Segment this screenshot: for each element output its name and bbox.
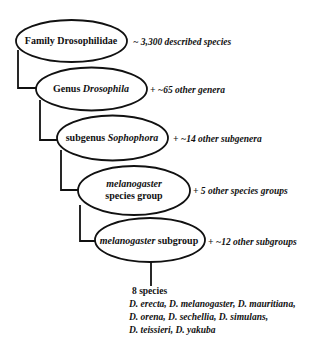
node-genus-label: Genus Drosophila: [53, 83, 129, 95]
node-species-group-italic: melanogaster: [106, 178, 162, 189]
node-subgenus-prefix: subgenus: [66, 132, 108, 143]
node-subgenus-italic: Sophophora: [108, 132, 159, 143]
node-genus-italic: Drosophila: [83, 83, 129, 94]
node-species-group-label: melanogaster species group: [105, 178, 162, 202]
node-subgroup-label: melanogaster subgroup: [100, 235, 198, 247]
annotation-subgenus: + ~14 other subgenera: [173, 134, 262, 144]
annotation-subgroup: + ~12 other subgroups: [208, 237, 297, 247]
node-subgroup-suffix: subgroup: [155, 235, 198, 246]
annotation-genus: + ~65 other genera: [150, 85, 225, 95]
connector-speciesgroup-subgroup: [80, 205, 96, 241]
node-genus-prefix: Genus: [53, 83, 83, 94]
node-species-group-suffix: species group: [105, 190, 162, 201]
leaf-species-line-2: D. orena, D. sechellia, D. simulans,: [129, 311, 296, 324]
leaf-species-block: 8 species D. erecta, D. melanogaster, D.…: [129, 285, 296, 337]
annotation-species-group: + 5 other species groups: [193, 186, 288, 196]
annotation-family: ~ 3,300 described species: [133, 37, 231, 47]
node-family-text: Family Drosophilidae: [25, 35, 117, 46]
node-family-label: Family Drosophilidae: [25, 35, 117, 47]
node-subgroup-italic: melanogaster: [100, 235, 156, 246]
node-subgenus-label: subgenus Sophophora: [66, 132, 159, 144]
leaf-species-line-3: D. teissieri, D. yakuba: [129, 324, 296, 337]
leaf-species-line-1: D. erecta, D. melanogaster, D. mauritian…: [129, 298, 296, 311]
leaf-species-count: 8 species: [129, 285, 296, 298]
